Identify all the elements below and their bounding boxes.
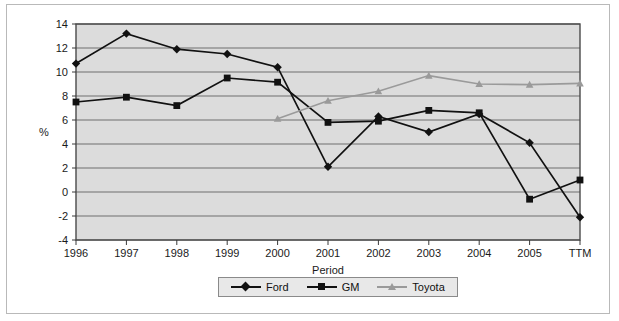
y-tick-label: 8: [62, 90, 68, 102]
legend-item-ford[interactable]: Ford: [231, 281, 289, 293]
y-tick-label: 4: [62, 138, 68, 150]
x-tick-label: 1997: [114, 247, 138, 259]
y-tick-label: 6: [62, 114, 68, 126]
legend-label-gm: GM: [342, 281, 360, 293]
gm-line-marker-icon: [307, 282, 337, 292]
data-point-marker: [224, 75, 231, 82]
y-tick-label: 14: [56, 18, 68, 30]
toyota-line-marker-icon: [377, 282, 407, 292]
y-tick-label: -2: [58, 210, 68, 222]
chart-figure: -4-2024681012141996199719981999200020012…: [0, 0, 619, 321]
data-point-marker: [73, 99, 80, 106]
legend-item-toyota[interactable]: Toyota: [377, 281, 444, 293]
data-point-marker: [123, 94, 130, 101]
y-tick-label: 2: [62, 162, 68, 174]
legend-label-ford: Ford: [266, 281, 289, 293]
data-point-marker: [526, 196, 533, 203]
y-axis-title: %: [39, 126, 49, 138]
y-tick-label: 0: [62, 186, 68, 198]
plot-background: [76, 24, 580, 240]
legend-item-gm[interactable]: GM: [307, 281, 360, 293]
y-tick-label: 10: [56, 66, 68, 78]
data-point-marker: [425, 107, 432, 114]
x-tick-label: TTM: [569, 247, 592, 259]
x-tick-label: 2003: [417, 247, 441, 259]
y-tick-label: 12: [56, 42, 68, 54]
y-tick-label: -4: [58, 234, 68, 246]
x-tick-label: 2005: [517, 247, 541, 259]
data-point-marker: [173, 102, 180, 109]
x-tick-label: 2002: [366, 247, 390, 259]
x-tick-label: 2001: [316, 247, 340, 259]
x-tick-label: 1999: [215, 247, 239, 259]
x-tick-label: 2004: [467, 247, 491, 259]
ford-line-marker-icon: [231, 282, 261, 292]
legend-label-toyota: Toyota: [412, 281, 444, 293]
x-tick-label: 2000: [265, 247, 289, 259]
x-tick-label: 1998: [165, 247, 189, 259]
data-point-marker: [325, 119, 332, 126]
x-tick-label: 1996: [64, 247, 88, 259]
line-chart: -4-2024681012141996199719981999200020012…: [0, 0, 619, 321]
data-point-marker: [476, 109, 483, 116]
data-point-marker: [274, 79, 281, 86]
data-point-marker: [375, 118, 382, 125]
data-point-marker: [577, 177, 584, 184]
chart-legend: Ford GM Toyota: [218, 277, 458, 297]
x-axis-title: Period: [312, 264, 344, 276]
plot-area-wrapper: -4-2024681012141996199719981999200020012…: [0, 0, 619, 321]
